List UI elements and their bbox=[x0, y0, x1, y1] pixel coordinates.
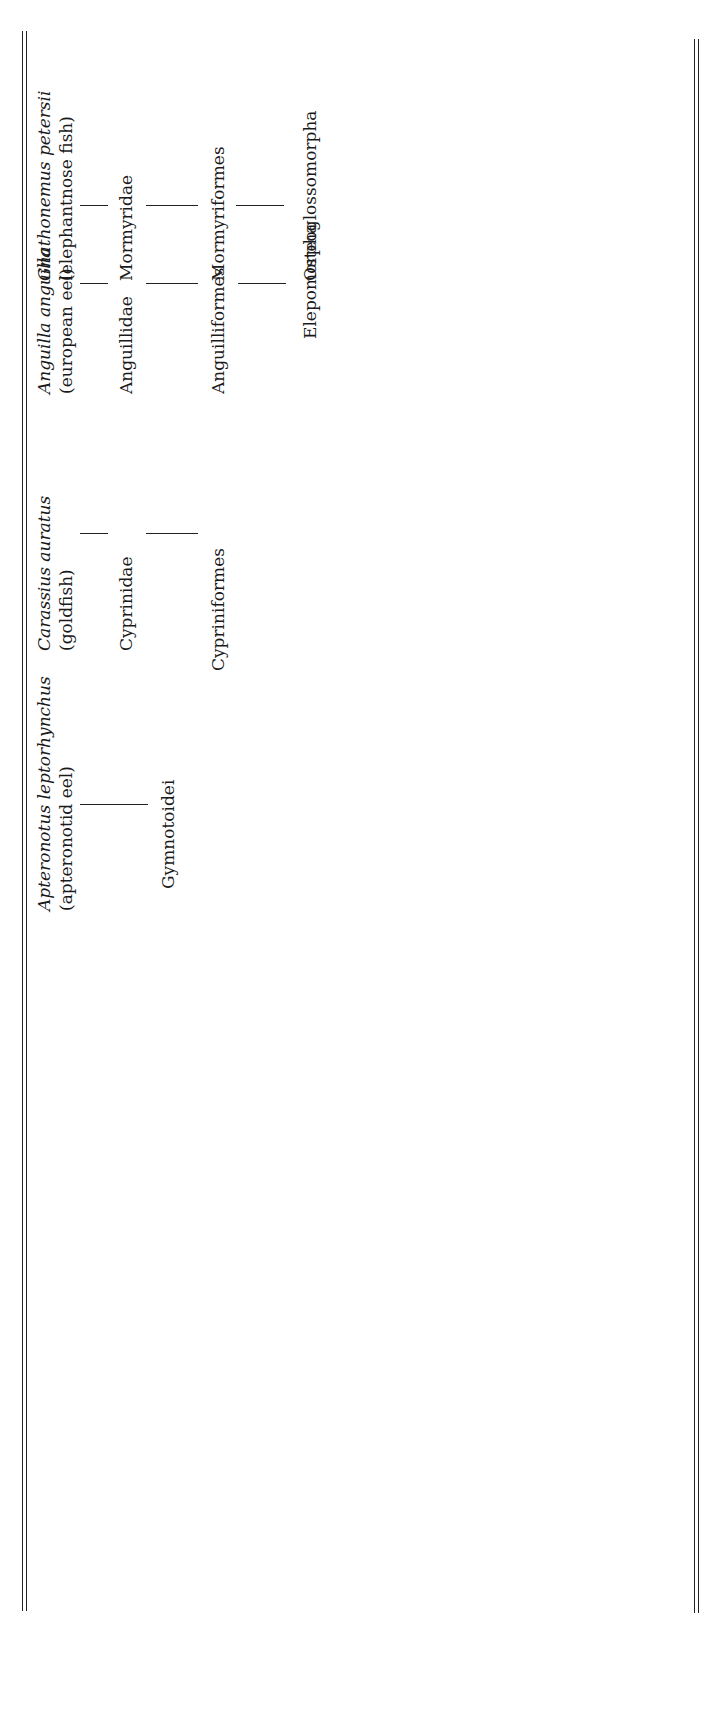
link-line bbox=[238, 283, 286, 284]
link-line bbox=[80, 804, 148, 805]
link-line bbox=[146, 283, 198, 284]
link-line bbox=[236, 205, 284, 206]
link-line bbox=[146, 533, 198, 534]
species-name: Anguilla anguilla bbox=[34, 248, 54, 394]
order-label: Mormyriformes bbox=[208, 146, 228, 281]
common-name: (european eel) bbox=[56, 268, 76, 394]
link-line bbox=[146, 205, 198, 206]
suborder-label: Gymnotoidei bbox=[158, 780, 178, 889]
link-line bbox=[80, 205, 108, 206]
bottom-rule-1 bbox=[694, 39, 695, 1613]
common-name: (elephantnose fish) bbox=[56, 116, 76, 281]
common-name: (goldfish) bbox=[56, 569, 76, 651]
bottom-rule-2 bbox=[698, 39, 699, 1613]
superorder-label: Elepomorpha bbox=[300, 224, 320, 339]
taxonomy-figure: Gnathonemus petersii (elephantnose fish)… bbox=[0, 0, 728, 1719]
species-name: Carassius auratus bbox=[34, 496, 54, 651]
species-name: Apteronotus leptorhynchus bbox=[34, 676, 54, 911]
order-label: Cypriniformes bbox=[208, 548, 228, 671]
family-label: Cyprinidae bbox=[116, 556, 136, 651]
common-name: (apteronotid eel) bbox=[56, 766, 76, 911]
top-rule-1 bbox=[22, 31, 23, 1611]
family-label: Mormyridae bbox=[116, 175, 136, 281]
top-rule-2 bbox=[26, 31, 27, 1611]
link-line bbox=[80, 533, 108, 534]
order-label: Anguilliformes bbox=[208, 268, 228, 394]
family-label: Anguillidae bbox=[116, 296, 136, 394]
link-line bbox=[80, 283, 108, 284]
